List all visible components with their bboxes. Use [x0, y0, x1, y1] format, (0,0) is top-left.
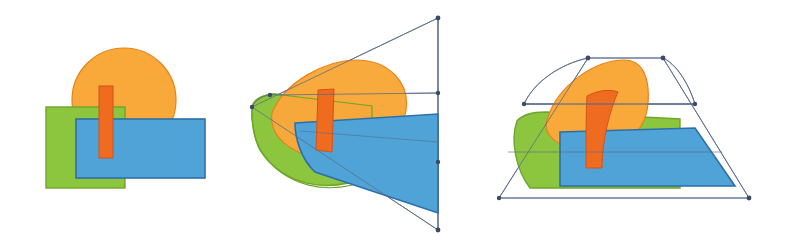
mesh-handle-right-mid[interactable] [693, 102, 697, 106]
blue-rectangle[interactable] [76, 119, 205, 178]
mesh-handle-bottom-right[interactable] [436, 228, 441, 233]
mesh-handle-top-right[interactable] [436, 16, 441, 21]
perspective-warp-trapezoid-graphic [490, 0, 794, 248]
mesh-handle-left-mid[interactable] [522, 102, 526, 106]
panel-perspective-warp-trapezoid[interactable] [490, 0, 794, 248]
mesh-handle-top-left[interactable] [250, 105, 254, 109]
red-bar-warped[interactable] [316, 89, 334, 152]
perspective-warp-wedge-graphic [240, 0, 520, 248]
red-bar[interactable] [99, 86, 113, 158]
panel-original-composition[interactable] [0, 0, 248, 248]
panel-perspective-warp-wedge[interactable] [240, 0, 520, 248]
figure-canvas [0, 0, 794, 248]
mesh-handle-right-mid[interactable] [436, 91, 440, 95]
mesh-handle-top-left[interactable] [586, 56, 591, 61]
mesh-handle-upper-mid[interactable] [268, 93, 272, 97]
mesh-handle-bottom-right[interactable] [747, 196, 752, 201]
mesh-handle-top-right[interactable] [661, 56, 666, 61]
mesh-handle-bottom-left[interactable] [497, 196, 501, 200]
original-composition-graphic [0, 0, 248, 248]
mesh-handle-right-low[interactable] [436, 160, 440, 164]
